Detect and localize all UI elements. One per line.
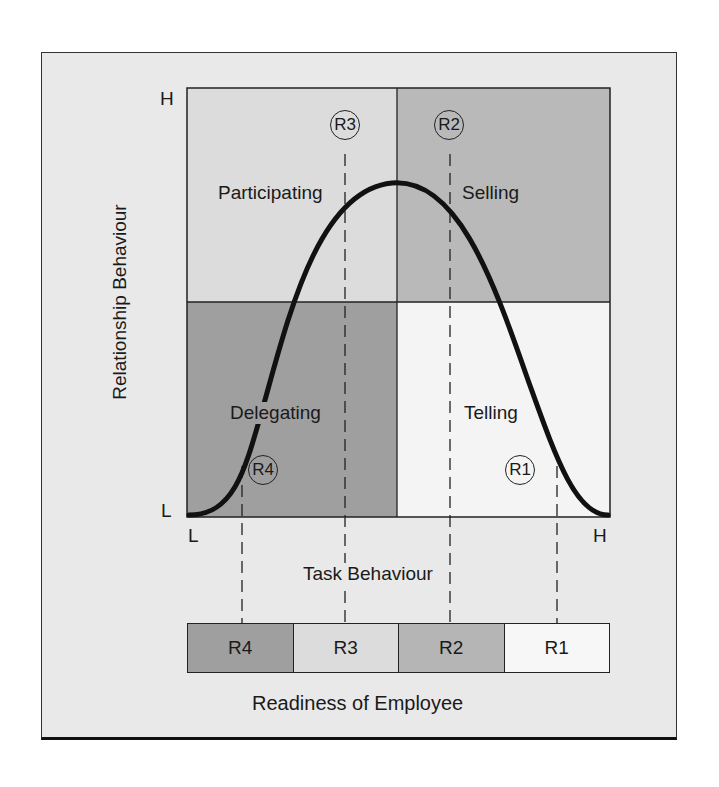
readiness-segment-r4: R4 [188, 624, 294, 672]
y-axis-title: Relationship Behaviour [109, 192, 131, 412]
readiness-marker-r2: R2 [434, 110, 464, 140]
readiness-segment-r1: R1 [505, 624, 610, 672]
readiness-bar-title: Readiness of Employee [252, 692, 463, 715]
readiness-segment-r3: R3 [294, 624, 400, 672]
y-axis-high: H [160, 88, 174, 110]
x-axis-high: H [593, 525, 607, 547]
readiness-segment-r2: R2 [399, 624, 505, 672]
readiness-bar: R4 R3 R2 R1 [187, 623, 610, 673]
readiness-marker-r4: R4 [248, 455, 278, 485]
readiness-marker-r1: R1 [505, 455, 535, 485]
readiness-marker-r3: R3 [330, 110, 360, 140]
quadrant-label-participating: Participating [216, 182, 325, 204]
x-axis-title: Task Behaviour [300, 563, 436, 585]
quadrant-label-selling: Selling [462, 182, 519, 204]
quadrant-label-telling: Telling [462, 402, 520, 424]
y-axis-low: L [161, 500, 172, 522]
x-axis-low: L [188, 525, 199, 547]
quadrant-label-delegating: Delegating [228, 402, 323, 424]
